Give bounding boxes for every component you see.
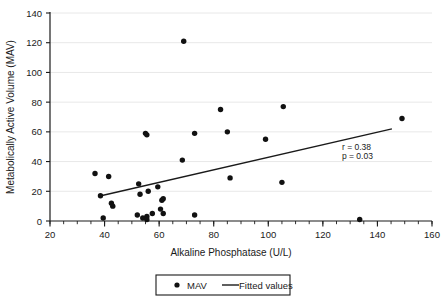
circle-marker-icon — [174, 282, 179, 287]
y-tick-label: 120 — [26, 37, 42, 48]
y-tick-label: 80 — [31, 97, 42, 108]
data-point — [135, 212, 140, 217]
y-tick-label: 60 — [31, 126, 42, 137]
data-point — [155, 184, 160, 189]
legend-label-fitted-values: Fitted values — [239, 280, 293, 291]
data-point — [110, 203, 115, 208]
data-point — [106, 174, 111, 179]
data-point — [192, 131, 197, 136]
x-tick-label: 80 — [208, 229, 219, 240]
y-tick-label: 20 — [31, 186, 42, 197]
data-point — [180, 157, 185, 162]
data-point — [144, 217, 149, 222]
x-tick-label: 60 — [154, 229, 165, 240]
chart-canvas: 20406080100120140160 020406080100120140 … — [0, 0, 448, 300]
data-point — [158, 206, 163, 211]
data-point — [279, 180, 284, 185]
x-tick-label: 100 — [260, 229, 276, 240]
y-tick-label: 100 — [26, 67, 42, 78]
data-point — [137, 192, 142, 197]
data-point — [161, 196, 166, 201]
data-point — [136, 181, 141, 186]
data-point — [92, 171, 97, 176]
y-tick-label: 140 — [26, 8, 42, 19]
x-tick-label: 40 — [99, 229, 110, 240]
x-tick-label: 20 — [45, 229, 56, 240]
y-tick-label: 40 — [31, 156, 42, 167]
y-tick-label: 0 — [37, 216, 42, 227]
legend-label-mav: MAV — [187, 280, 208, 291]
data-point — [192, 212, 197, 217]
data-point — [144, 132, 149, 137]
data-point — [225, 129, 230, 134]
x-tick-label: 160 — [424, 229, 440, 240]
data-point — [263, 137, 268, 142]
data-point — [150, 211, 155, 216]
data-point — [281, 104, 286, 109]
scatter-plot-figure: 20406080100120140160 020406080100120140 … — [0, 0, 448, 300]
data-point — [181, 39, 186, 44]
data-point — [98, 193, 103, 198]
chart-legend: MAV Fitted values — [156, 275, 293, 295]
y-axis-title: Metabolically Active Volume (MAV) — [5, 40, 16, 194]
x-axis-title: Alkaline Phosphatase (U/L) — [170, 247, 291, 258]
pvalue-annotation: p = 0.03 — [342, 151, 373, 161]
data-point — [357, 217, 362, 222]
data-point — [146, 189, 151, 194]
data-point — [227, 175, 232, 180]
x-tick-label: 120 — [315, 229, 331, 240]
data-point — [101, 215, 106, 220]
data-point — [399, 116, 404, 121]
data-point — [161, 211, 166, 216]
data-point — [218, 107, 223, 112]
x-tick-label: 140 — [369, 229, 385, 240]
